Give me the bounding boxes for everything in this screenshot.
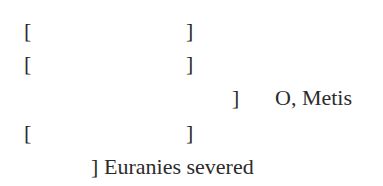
line-2-open-bracket: [ [24,53,31,75]
line-3-close-bracket: ] [232,87,239,109]
line-4-open-bracket: [ [24,122,31,144]
line-5-close-bracket: ] [91,156,98,178]
line-1-close-bracket: ] [186,20,193,42]
line-1-open-bracket: [ [24,20,31,42]
line-3-text: O, Metis [275,87,352,109]
line-5-text: Euranies severed [104,156,254,178]
line-2-close-bracket: ] [186,53,193,75]
line-4-close-bracket: ] [186,122,193,144]
